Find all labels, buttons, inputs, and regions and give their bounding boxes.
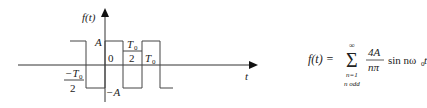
x-axis-label: t: [245, 70, 249, 82]
low-level-label: −A: [106, 86, 120, 98]
fraction-numerator: 4A: [368, 46, 381, 58]
half-period-numerator: T: [127, 38, 134, 50]
neg-half-period-numerator: −T: [65, 67, 79, 79]
origin-label: 0: [108, 52, 114, 64]
neg-half-period-denominator: 2: [70, 82, 76, 94]
half-period-numerator-sub: 0: [134, 44, 138, 52]
formula-trail: sin nω: [388, 54, 416, 66]
high-level-label: A: [94, 36, 102, 48]
sum-symbol: Σ: [346, 49, 358, 71]
x-axis-arrow-icon: [249, 61, 258, 69]
neg-half-period-numerator-sub: 0: [79, 73, 83, 81]
sum-condition: n odd: [344, 80, 360, 88]
period-label: T: [145, 52, 152, 64]
formula-lhs: f(t) =: [308, 52, 334, 66]
sum-lower-limit: n=1: [346, 71, 358, 79]
period-label-sub: 0: [152, 58, 156, 66]
half-period-denominator: 2: [129, 52, 135, 64]
y-axis-label: f(t): [82, 11, 96, 24]
y-axis-arrow-icon: [101, 8, 109, 17]
square-wave-diagram: f(t) t A −A 0 T 0 2 T 0 −T 0 2 f(t) = ∞ …: [0, 0, 427, 108]
fraction-denominator: nπ: [368, 61, 380, 73]
